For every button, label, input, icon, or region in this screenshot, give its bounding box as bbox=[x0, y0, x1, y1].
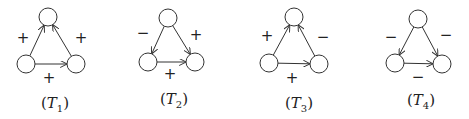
node-top bbox=[409, 10, 427, 28]
node-right bbox=[433, 55, 451, 73]
node-left bbox=[260, 54, 278, 72]
node-left bbox=[386, 54, 404, 72]
edge-top-to-left bbox=[399, 27, 413, 55]
edge-sign-label: + bbox=[75, 29, 88, 47]
edge-left-to-right bbox=[278, 63, 310, 64]
diagrams-root: +++(T1)−++(T2)+−+(T3)−−−(T4) bbox=[17, 8, 453, 114]
node-top bbox=[159, 9, 177, 27]
edge-sign-label: − bbox=[440, 26, 453, 44]
edge-sign-label: − bbox=[412, 68, 425, 86]
triangle-t1: +++(T1) bbox=[17, 8, 88, 114]
edge-sign-label: + bbox=[164, 65, 177, 83]
edge-left-to-right bbox=[404, 63, 433, 64]
edge-sign-label: + bbox=[286, 69, 299, 87]
edge-left-to-top bbox=[30, 26, 44, 56]
edge-sign-label: − bbox=[317, 28, 330, 46]
edge-sign-label: + bbox=[17, 29, 30, 47]
edge-right-to-top bbox=[53, 25, 72, 56]
edge-sign-label: + bbox=[190, 26, 203, 44]
signed-triangle-diagrams: +++(T1)−++(T2)+−+(T3)−−−(T4) bbox=[0, 0, 469, 119]
diagram-caption: (T3) bbox=[285, 94, 313, 114]
diagram-caption: (T4) bbox=[407, 91, 435, 111]
diagram-caption: (T2) bbox=[160, 90, 188, 110]
triangle-t3: +−+(T3) bbox=[260, 8, 329, 114]
edge-top-to-right bbox=[173, 26, 190, 54]
edge-sign-label: + bbox=[43, 69, 56, 87]
edge-top-to-right bbox=[422, 27, 437, 56]
node-right bbox=[186, 53, 204, 71]
edge-right-to-top bbox=[298, 25, 314, 56]
node-right bbox=[310, 55, 328, 73]
edge-sign-label: − bbox=[385, 28, 398, 46]
node-left bbox=[17, 55, 35, 73]
edge-top-to-left bbox=[152, 26, 164, 53]
node-left bbox=[139, 53, 157, 71]
triangle-t2: −++(T2) bbox=[137, 9, 204, 110]
node-top bbox=[285, 8, 303, 26]
triangle-t4: −−−(T4) bbox=[385, 10, 453, 111]
diagram-caption: (T1) bbox=[41, 94, 69, 114]
edge-sign-label: + bbox=[261, 27, 274, 45]
node-right bbox=[67, 55, 85, 73]
edge-sign-label: − bbox=[137, 24, 150, 42]
node-top bbox=[39, 8, 57, 26]
edge-left-to-top bbox=[273, 25, 289, 55]
